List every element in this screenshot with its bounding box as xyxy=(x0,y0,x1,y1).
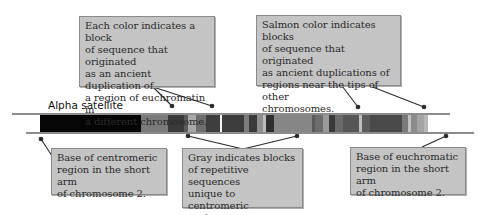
sequence-band xyxy=(263,115,266,132)
sequence-band xyxy=(329,115,335,132)
sequence-band xyxy=(222,115,244,132)
sequence-band xyxy=(408,115,411,132)
sequence-band xyxy=(402,115,408,132)
sequence-band xyxy=(417,115,424,132)
callout-color-blocks: Each color indicates a block of sequence… xyxy=(79,16,215,87)
sequence-band xyxy=(370,115,402,132)
sequence-band xyxy=(249,115,257,132)
sequence-band xyxy=(335,115,343,132)
callout-salmon-blocks: Salmon color indicates blocks of sequenc… xyxy=(256,15,401,86)
sequence-band xyxy=(359,115,362,132)
sequence-band xyxy=(424,115,428,132)
sequence-band xyxy=(244,115,249,132)
sequence-band xyxy=(206,115,220,132)
sequence-band xyxy=(323,115,329,132)
sequence-band xyxy=(343,115,359,132)
sequence-band xyxy=(362,115,370,132)
callout-centromeric-base: Base of centromeric region in the short … xyxy=(51,148,167,195)
sequence-band xyxy=(266,115,274,132)
callout-euchromatic-base: Base of euchromatic region in the short … xyxy=(350,147,466,195)
callout-gray-blocks: Gray indicates blocks of repetitive sequ… xyxy=(182,148,303,208)
sequence-band xyxy=(315,115,323,132)
sequence-band xyxy=(312,115,315,132)
sequence-band xyxy=(257,115,263,132)
sequence-band xyxy=(274,115,312,132)
sequence-band xyxy=(411,115,417,132)
sequence-band xyxy=(220,115,222,132)
